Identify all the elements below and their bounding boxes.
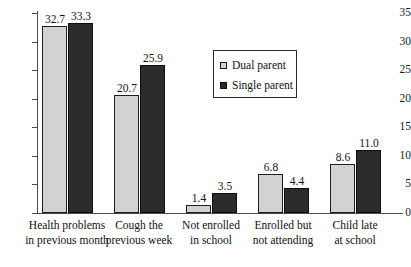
legend-swatch-icon-dual-parent xyxy=(220,62,227,69)
legend-label-dual-parent: Dual parent xyxy=(232,59,286,71)
plot-area: 32.733.320.725.91.43.56.84.48.611.0 xyxy=(38,13,403,213)
bar-value-label: 6.8 xyxy=(251,161,291,173)
bar-single-parent xyxy=(212,193,237,213)
bar-group: 6.84.4 xyxy=(258,13,309,213)
bar-value-label: 4.4 xyxy=(277,175,317,187)
legend-entry-dual-parent: Dual parent xyxy=(220,59,286,71)
bar-dual-parent xyxy=(186,205,211,213)
legend: Dual parent Single parent xyxy=(213,50,297,98)
bar-single-parent xyxy=(140,65,165,213)
y-axis-tick-mark xyxy=(32,99,37,100)
bar-dual-parent xyxy=(42,26,67,213)
legend-swatch-icon-single-parent xyxy=(220,82,227,89)
x-axis-category-label: Child lateat school xyxy=(299,218,411,247)
bar-single-parent xyxy=(284,188,309,213)
y-axis-tick-mark xyxy=(32,42,37,43)
bar-group: 8.611.0 xyxy=(330,13,381,213)
y-axis-tick-mark xyxy=(32,213,37,214)
bar-single-parent xyxy=(68,23,93,213)
x-axis-category-label-line: Child late xyxy=(299,218,411,233)
bar-single-parent xyxy=(356,150,381,213)
bar-value-label: 3.5 xyxy=(205,180,245,192)
bar-value-label: 11.0 xyxy=(349,137,389,149)
bar-group: 20.725.9 xyxy=(114,13,165,213)
y-axis-tick-mark xyxy=(32,184,37,185)
cropped-title-remnant xyxy=(64,0,184,3)
y-axis-tick-mark xyxy=(32,70,37,71)
bar-chart: 05101520253035 32.733.320.725.91.43.56.8… xyxy=(0,0,411,267)
legend-entry-single-parent: Single parent xyxy=(220,79,293,91)
bar-dual-parent xyxy=(330,164,355,213)
bar-group: 1.43.5 xyxy=(186,13,237,213)
x-axis-line xyxy=(37,213,403,214)
y-axis-tick-mark xyxy=(32,156,37,157)
bar-value-label: 33.3 xyxy=(61,10,101,22)
x-axis-category-label-line: at school xyxy=(299,233,411,248)
bar-dual-parent xyxy=(114,95,139,213)
bar-group: 32.733.3 xyxy=(42,13,93,213)
bar-value-label: 25.9 xyxy=(133,52,173,64)
legend-label-single-parent: Single parent xyxy=(232,79,293,91)
y-axis-tick-mark xyxy=(32,127,37,128)
